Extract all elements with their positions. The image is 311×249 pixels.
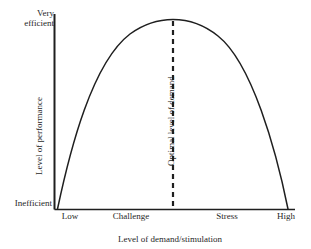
optimal-demand-annotation-label: Optimal level of demand: [166, 61, 178, 181]
x-axis-tick-label-stress: Stress: [202, 211, 252, 221]
y-axis-max-label: Very efficient: [8, 8, 54, 28]
y-axis-title: Level of performance: [34, 66, 46, 206]
performance-demand-curve-figure: Very efficient Inefficient Level of perf…: [0, 0, 311, 249]
x-axis-tick-label-challenge: Challenge: [103, 211, 159, 221]
x-axis-tick-label-high: High: [265, 211, 307, 221]
x-axis-title: Level of demand/stimulation: [60, 234, 280, 244]
x-axis-tick-label-low: Low: [52, 211, 88, 221]
